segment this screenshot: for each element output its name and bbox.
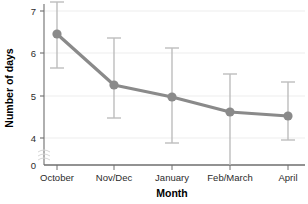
data-point-febmarch	[225, 107, 234, 116]
x-tick-label-novdec: Nov/Dec	[96, 172, 133, 183]
y-tick-label-7: 7	[31, 6, 36, 17]
y-tick-label-0: 0	[31, 160, 36, 171]
chart-canvas: 7 6 5 4 0 October Nov/Dec January Feb/Ma…	[0, 0, 308, 204]
data-point-novdec	[109, 80, 118, 89]
data-point-january	[167, 92, 176, 101]
x-tick-label-january: January	[155, 172, 189, 183]
y-tick-label-5: 5	[31, 91, 36, 102]
x-tick-label-febmarch: Feb/March	[207, 172, 252, 183]
x-tick-label-april: April	[278, 172, 297, 183]
x-tick-label-october: October	[40, 172, 74, 183]
data-point-october	[52, 29, 61, 38]
line-chart: 7 6 5 4 0 October Nov/Dec January Feb/Ma…	[0, 0, 308, 204]
y-axis-title: Number of days	[3, 48, 15, 128]
y-tick-label-6: 6	[31, 48, 36, 59]
data-point-april	[283, 111, 292, 120]
x-axis-title: Month	[156, 187, 188, 199]
y-tick-label-4: 4	[31, 133, 36, 144]
